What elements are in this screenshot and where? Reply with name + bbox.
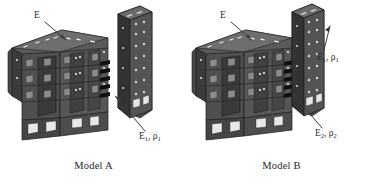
modulus-subscript-2: 2 bbox=[321, 132, 324, 139]
density-symbol-rho: ρ bbox=[329, 128, 334, 138]
density-subscript-2: 2 bbox=[334, 132, 337, 139]
density-symbol-rho: ρ bbox=[331, 52, 336, 62]
modulus-subscript-1: 1 bbox=[323, 56, 326, 63]
caption-model-b: Model B bbox=[188, 160, 375, 171]
modulus-symbol-e: E bbox=[34, 10, 40, 20]
model-a-panel: E E1, ρ1 Model A bbox=[0, 0, 187, 189]
modulus-subscript-1: 1 bbox=[145, 135, 148, 142]
modulus-symbol-e: E bbox=[317, 52, 323, 62]
modulus-label-e2-rho2: E2, ρ2 bbox=[315, 128, 337, 138]
density-subscript-1: 1 bbox=[158, 135, 161, 142]
modulus-symbol-e: E bbox=[139, 131, 145, 141]
density-symbol-rho: ρ bbox=[153, 131, 158, 141]
caption-model-a: Model A bbox=[0, 160, 187, 171]
label-comma: , bbox=[326, 52, 328, 62]
modulus-label-e1-rho1: E1, ρ1 bbox=[317, 52, 339, 62]
density-subscript-1: 1 bbox=[336, 56, 339, 63]
label-comma: , bbox=[324, 128, 326, 138]
model-b-3d-view bbox=[188, 0, 375, 163]
modulus-symbol-e: E bbox=[220, 10, 226, 20]
model-b-panel: E E1, ρ1 E2, ρ2 Model B bbox=[188, 0, 375, 189]
modulus-symbol-e: E bbox=[315, 128, 321, 138]
modulus-label-e: E bbox=[34, 10, 40, 20]
label-comma: , bbox=[148, 131, 150, 141]
figure-root: E E1, ρ1 Model A bbox=[0, 0, 375, 189]
modulus-label-e: E bbox=[220, 10, 226, 20]
modulus-label-e1-rho1: E1, ρ1 bbox=[139, 131, 161, 141]
